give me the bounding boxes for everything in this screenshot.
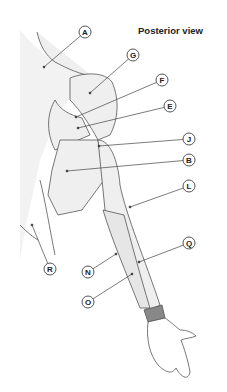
label-f: F <box>156 74 169 87</box>
label-b: B <box>183 154 196 167</box>
label-a: A <box>79 26 92 39</box>
label-o: O <box>82 296 95 309</box>
label-g: G <box>127 49 140 62</box>
label-l: L <box>183 180 196 193</box>
label-n: N <box>82 266 95 279</box>
label-j: J <box>183 133 196 146</box>
label-e: E <box>164 100 177 113</box>
label-q: Q <box>183 237 196 250</box>
arm-muscle-illustration <box>0 0 227 392</box>
label-r: R <box>44 263 57 276</box>
